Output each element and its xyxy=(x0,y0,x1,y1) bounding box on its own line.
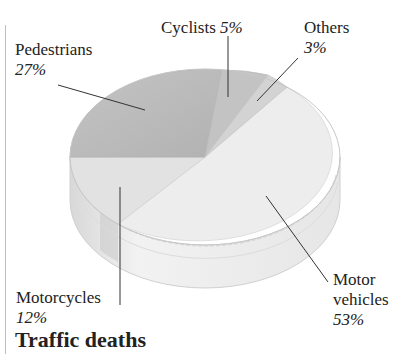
label-pedestrians: Pedestrians 27% xyxy=(15,40,92,80)
label-motorcycles-pct: 12% xyxy=(16,308,101,328)
slice-pedestrians xyxy=(70,69,222,157)
label-motor-vehicles-pct: 53% xyxy=(333,310,389,330)
label-cyclists: Cyclists 5% xyxy=(161,18,243,38)
label-cyclists-name: Cyclists xyxy=(161,18,216,37)
label-motor-vehicles-line1: Motor xyxy=(333,270,389,290)
label-motor-vehicles: Motor vehicles 53% xyxy=(333,270,389,330)
chart-title: Traffic deaths xyxy=(15,327,146,353)
label-motorcycles: Motorcycles 12% xyxy=(16,288,101,328)
label-motor-vehicles-line2: vehicles xyxy=(333,290,389,310)
label-pedestrians-name: Pedestrians xyxy=(15,40,92,60)
label-pedestrians-pct: 27% xyxy=(15,60,92,80)
label-others-pct: 3% xyxy=(304,38,349,58)
label-cyclists-pct: 5% xyxy=(220,18,243,37)
label-others-name: Others xyxy=(304,18,349,38)
label-others: Others 3% xyxy=(304,18,349,58)
label-motorcycles-name: Motorcycles xyxy=(16,288,101,308)
